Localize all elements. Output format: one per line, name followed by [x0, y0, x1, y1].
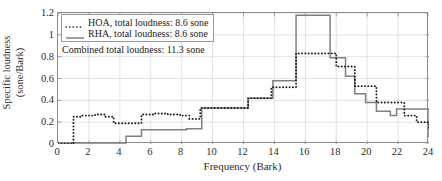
x-tick-label: 22 [392, 146, 403, 157]
x-tick-label: 6 [147, 146, 152, 157]
x-tick-label: 14 [268, 146, 279, 157]
x-tick-label: 12 [237, 146, 248, 157]
legend-label-rha: RHA, total loudness: 8.6 sone [88, 28, 208, 39]
x-axis-label: Frequency (Bark) [57, 160, 428, 172]
x-tick-label: 20 [361, 146, 372, 157]
annotation-combined-loudness: Combined total loudness: 11.3 sone [62, 44, 205, 55]
x-tick-label: 18 [330, 146, 341, 157]
x-tick-label: 8 [178, 146, 183, 157]
chart-figure: Specific loudness (sone/Bark) 00.20.40.6… [0, 0, 442, 181]
chart-legend: HOA, total loudness: 8.6 sone RHA, total… [61, 14, 214, 42]
legend-label-hoa: HOA, total loudness: 8.6 sone [88, 17, 209, 28]
x-tick-label: 10 [206, 146, 217, 157]
x-tick-label: 4 [116, 146, 121, 157]
x-tick-label: 2 [85, 146, 90, 157]
legend-item-hoa: HOA, total loudness: 8.6 sone [65, 17, 209, 28]
legend-swatch-rha [65, 29, 85, 39]
x-tick-label: 16 [299, 146, 310, 157]
legend-swatch-hoa [65, 18, 85, 28]
x-tick-label: 0 [54, 146, 59, 157]
x-tick-label: 24 [423, 146, 434, 157]
legend-item-rha: RHA, total loudness: 8.6 sone [65, 28, 209, 39]
